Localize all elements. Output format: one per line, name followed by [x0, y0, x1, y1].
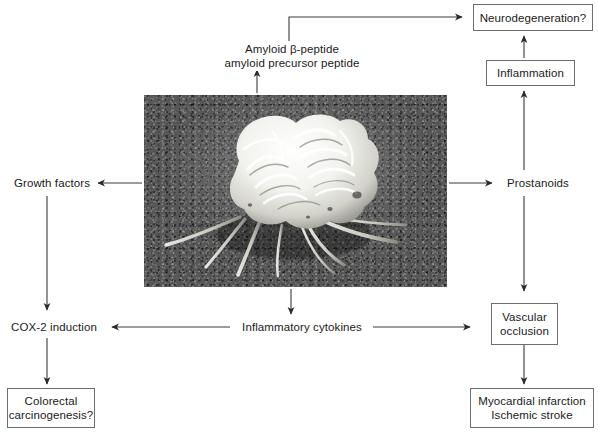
node-neurodegeneration[interactable]: Neurodegeneration? — [473, 4, 593, 31]
node-vascular-occlusion[interactable]: Vascular occlusion — [491, 303, 558, 345]
node-myocardial-line-2: Ischemic stroke — [491, 408, 572, 422]
node-cox2-induction-label: COX-2 induction — [11, 320, 97, 334]
cell-micrograph-image — [144, 95, 447, 287]
node-inflammation-label: Inflammation — [497, 66, 564, 80]
node-amyloid-peptide-line-2: amyloid precursor peptide — [225, 56, 360, 70]
edge-amyloid-to-neurodegeneration — [289, 17, 462, 42]
node-amyloid-peptide: Amyloid β-peptide amyloid precursor pept… — [187, 41, 397, 71]
node-inflammation[interactable]: Inflammation — [486, 60, 575, 86]
node-neurodegeneration-label: Neurodegeneration? — [480, 11, 587, 25]
macrophage-cell-illustration — [144, 95, 447, 287]
node-prostanoids: Prostanoids — [492, 174, 584, 192]
node-inflammatory-cytokines: Inflammatory cytokines — [232, 318, 372, 336]
node-colorectal-line-2: carcinogenesis? — [9, 408, 94, 422]
node-myocardial-line-1: Myocardial infarction — [478, 394, 586, 408]
node-cox2-induction: COX-2 induction — [0, 318, 108, 336]
node-growth-factors-label: Growth factors — [14, 176, 90, 190]
node-growth-factors: Growth factors — [6, 174, 98, 192]
node-myocardial-infarction[interactable]: Myocardial infarction Ischemic stroke — [470, 388, 594, 428]
node-amyloid-peptide-line-1: Amyloid β-peptide — [245, 42, 339, 56]
node-vascular-occlusion-line-1: Vascular — [502, 310, 547, 324]
node-vascular-occlusion-line-2: occlusion — [500, 324, 549, 338]
node-colorectal-carcinogenesis[interactable]: Colorectal carcinogenesis? — [7, 388, 95, 428]
pathway-diagram: Amyloid β-peptide amyloid precursor pept… — [0, 0, 598, 436]
node-inflammatory-cytokines-label: Inflammatory cytokines — [242, 320, 362, 334]
node-colorectal-line-1: Colorectal — [25, 394, 78, 408]
node-prostanoids-label: Prostanoids — [507, 176, 569, 190]
